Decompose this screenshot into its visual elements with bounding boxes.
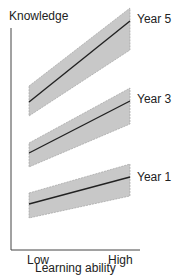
chart-plot [0,0,181,276]
y-axis-label: Knowledge [9,9,68,23]
series-year1 [29,164,130,218]
label-year1: Year 1 [137,170,171,184]
label-year3: Year 3 [137,92,171,106]
x-axis-label: Learning ability [35,261,116,275]
label-year5: Year 5 [137,12,171,26]
